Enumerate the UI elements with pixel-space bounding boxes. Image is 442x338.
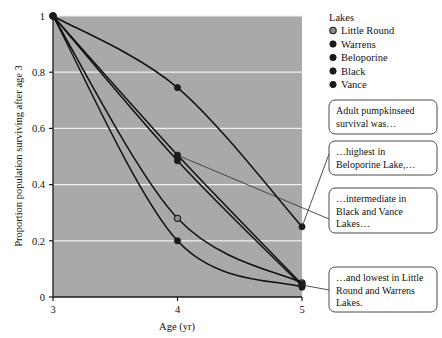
x-axis-title: Age (yr): [159, 321, 195, 333]
callout-line: Lakes.: [336, 297, 362, 308]
chart-figure: 00.20.40.60.81 345 Proportion population…: [0, 0, 442, 338]
callout-line: Adult pumpkinseed: [336, 105, 415, 116]
survival-line-chart: 00.20.40.60.81 345 Proportion population…: [0, 0, 442, 338]
data-point-marker: [299, 283, 305, 289]
y-tick-label: 0.4: [32, 179, 46, 190]
callout-line: …intermediate in: [336, 193, 406, 204]
y-tick-label: 0.2: [32, 236, 45, 247]
callout-boxes: Adult pumpkinseedsurvival was……highest i…: [329, 100, 437, 312]
x-tick-label: 5: [299, 304, 304, 315]
x-tick-label: 4: [175, 304, 181, 315]
callout-line: survival was…: [336, 118, 396, 129]
callout-line: Lakes…: [336, 218, 370, 229]
data-point-marker: [174, 158, 180, 164]
x-tick-label: 3: [50, 304, 55, 315]
legend-label-beloporine: Beloporine: [341, 52, 388, 63]
callout-line: Beloporine Lake,…: [336, 159, 415, 170]
callout-line: Black and Vance: [336, 206, 404, 217]
legend-label-little-round: Little Round: [341, 25, 395, 36]
data-point-marker: [50, 13, 56, 19]
legend-marker-black: [330, 68, 336, 74]
y-tick-label: 0.8: [32, 67, 45, 78]
y-axis-title: Proportion population surviving after ag…: [13, 65, 24, 247]
data-point-marker: [299, 224, 305, 230]
callout-line: …and lowest in Little: [336, 272, 424, 283]
callout-line: Round and Warrens: [336, 285, 415, 296]
legend-marker-beloporine: [330, 54, 336, 60]
data-point-marker: [174, 85, 180, 91]
y-tick-label: 0: [40, 292, 45, 303]
legend-marker-warrens: [330, 41, 336, 47]
legend-title: Lakes: [329, 12, 354, 23]
legend-label-warrens: Warrens: [341, 39, 376, 50]
data-point-marker: [174, 215, 180, 221]
legend-marker-vance: [330, 81, 336, 87]
legend-label-vance: Vance: [341, 79, 367, 90]
data-point-marker: [174, 238, 180, 244]
y-tick-label: 1: [40, 11, 45, 22]
y-tick-label: 0.6: [32, 123, 45, 134]
legend-marker-little-round: [330, 27, 336, 33]
legend-label-black: Black: [341, 66, 366, 77]
callout-line: …highest in: [336, 146, 385, 157]
